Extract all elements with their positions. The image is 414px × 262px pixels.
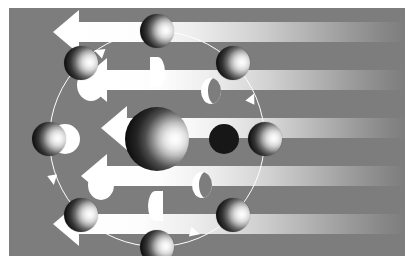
phase-disk-waning-gibbous (88, 170, 114, 200)
lunar-phases-figure (0, 0, 414, 262)
phase-disk-waning-crescent (192, 172, 212, 198)
diagram-panel (9, 8, 405, 256)
moon-full (32, 122, 66, 156)
phase-disk-first-quarter (150, 57, 165, 87)
phase-disk-third-quarter (148, 191, 163, 221)
moon-waxing-gibbous (64, 46, 98, 80)
phase-disk-waxing-crescent (201, 78, 221, 104)
phase-disk-new (209, 124, 239, 154)
moon-waning-gibbous (64, 198, 98, 232)
moon-waxing-crescent (216, 46, 250, 80)
orbit-arrow-left (47, 174, 59, 186)
moon-waning-crescent (216, 198, 250, 232)
moon-first-quarter (140, 14, 174, 48)
moon-third-quarter (140, 230, 174, 256)
moon-new (248, 122, 282, 156)
earth-sphere (125, 107, 189, 171)
